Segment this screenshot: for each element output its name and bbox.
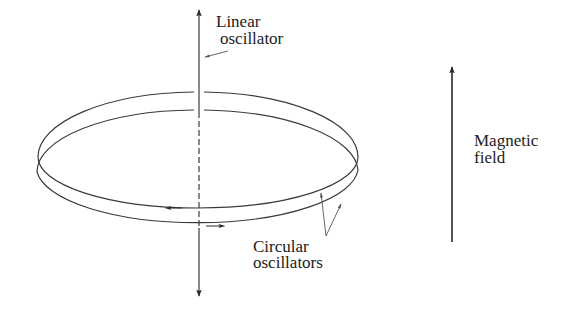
circular-pointer-upper-icon — [321, 193, 326, 236]
magnetic-field-label-line2: field — [474, 148, 506, 167]
linear-oscillator-label: Linear oscillator — [205, 12, 284, 57]
linear-oscillator-label-line2: oscillator — [220, 29, 284, 48]
oscillator-diagram: Linear oscillator Circular oscillators M… — [0, 0, 578, 312]
lower-ring — [37, 110, 358, 226]
linear-oscillator-pointer-icon — [205, 51, 228, 57]
upper-ring — [38, 92, 358, 208]
circular-pointer-lower-icon — [326, 204, 341, 236]
circular-oscillators-label-line2: oscillators — [253, 253, 323, 272]
magnetic-field-label: Magnetic field — [474, 131, 539, 167]
circular-oscillators-label: Circular oscillators — [253, 193, 341, 272]
